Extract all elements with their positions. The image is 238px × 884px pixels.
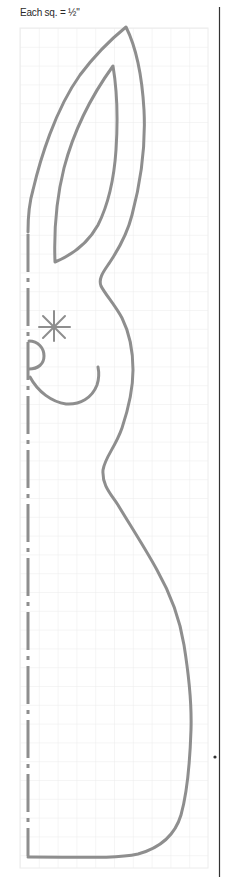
pattern-canvas	[0, 0, 238, 884]
stray-mark	[213, 755, 216, 758]
